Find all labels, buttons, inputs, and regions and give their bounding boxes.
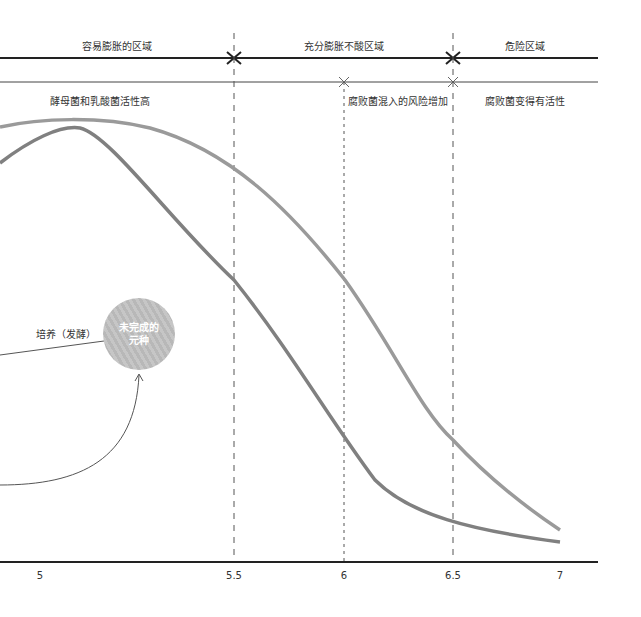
activity-label-risk: 腐败菌混入的风险增加 bbox=[348, 93, 448, 108]
arrow-curve bbox=[0, 375, 139, 485]
bubble-line-1: 未完成的 bbox=[119, 322, 159, 333]
tick-6: 6 bbox=[341, 570, 347, 581]
activity-label-yeast: 酵母菌和乳酸菌活性高 bbox=[50, 93, 150, 108]
upper-curve bbox=[0, 120, 560, 530]
bubble-line-2: 元种 bbox=[129, 335, 149, 346]
tick-7: 7 bbox=[557, 570, 563, 581]
activity-label-spoil: 腐败菌变得有活性 bbox=[485, 93, 565, 108]
tick-5.5: 5.5 bbox=[226, 570, 242, 581]
starter-bubble: 未完成的元种 bbox=[103, 298, 175, 370]
zone-label-expand: 容易膨胀的区域 bbox=[82, 38, 152, 53]
zone-label-full: 充分膨胀不酸区域 bbox=[304, 38, 384, 53]
zone-label-danger: 危险区域 bbox=[505, 38, 545, 53]
tick-5: 5 bbox=[37, 570, 43, 581]
annotation-line bbox=[0, 341, 104, 355]
annotation-label: 培养（发酵） bbox=[36, 326, 96, 341]
tick-6.5: 6.5 bbox=[445, 570, 461, 581]
